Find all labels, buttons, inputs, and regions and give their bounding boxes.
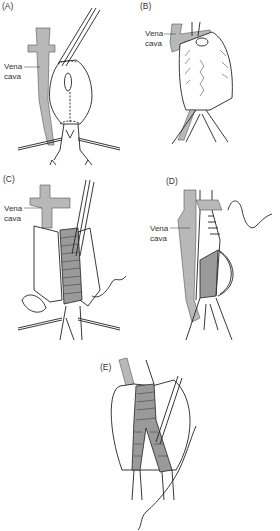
proximal-clamp (58, 8, 100, 66)
left-flap (34, 226, 62, 302)
aortotomy (65, 73, 72, 91)
vena-cava (119, 358, 134, 386)
vena-cava-label-line2: cava (145, 39, 162, 48)
vena-cava-label-line2: cava (4, 214, 21, 223)
vena-cava (178, 190, 200, 322)
iliac-arteries (54, 124, 88, 160)
panel-b: (B) Vena cava (140, 1, 232, 144)
wrapped-sac (218, 250, 233, 296)
panel-a-label: (A) (2, 1, 14, 11)
graft (200, 250, 218, 298)
distal-clamps (18, 318, 120, 330)
vena-cava-label-line1: Vena (4, 204, 23, 213)
vena-cava (30, 185, 70, 228)
panel-d: (D) Vena cava (150, 176, 272, 340)
vena-cava-label-line1: Vena (150, 224, 169, 233)
panel-b-label: (B) (140, 1, 152, 11)
panel-e: (E) (100, 358, 196, 530)
vena-cava-label-line1: Vena (4, 62, 23, 71)
suture (228, 201, 272, 228)
iliac-arteries (132, 470, 174, 500)
panel-a: (A) Vena cava (2, 1, 120, 165)
aneurysm-sac (49, 60, 92, 124)
aortic-lumen (196, 38, 208, 46)
panel-d-label: (D) (166, 176, 178, 186)
vena-cava-label-line2: cava (4, 72, 21, 81)
panel-c-label: (C) (3, 174, 15, 184)
vena-cava-label-line2: cava (150, 234, 167, 243)
panel-e-label: (E) (100, 362, 112, 372)
surgical-illustration: (A) Vena cava (B) Vena cava (0, 0, 280, 531)
distal-clamps (18, 138, 120, 150)
panel-c: (C) Vena cava (3, 174, 126, 340)
vena-cava-label-line1: Vena (145, 29, 164, 38)
